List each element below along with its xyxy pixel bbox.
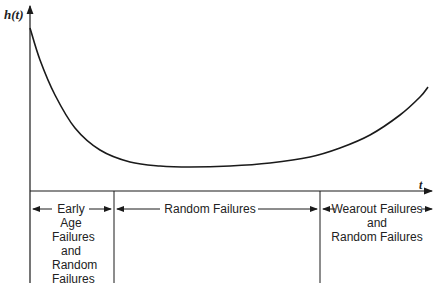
x-axis-label: t (419, 178, 422, 192)
hazard-curve (30, 28, 428, 167)
wearout-region-label: Wearout Failures and Random Failures (331, 202, 423, 244)
random-region-label: Random Failures (163, 202, 257, 216)
early-region-label: Early Age Failures and Random Failures (52, 202, 90, 286)
y-axis-label: h(t) (4, 8, 24, 22)
